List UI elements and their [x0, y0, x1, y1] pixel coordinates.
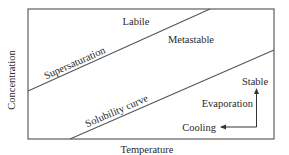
region-stable-label: Stable	[242, 76, 269, 87]
region-metastable-label: Metastable	[168, 34, 214, 45]
supersaturation-line	[28, 9, 210, 91]
cooling-label: Cooling	[182, 122, 217, 133]
region-labile-label: Labile	[123, 16, 150, 27]
y-axis-label: Concentration	[6, 50, 17, 110]
supersaturation-label: Supersaturation	[42, 44, 107, 81]
evaporation-label: Evaporation	[202, 98, 254, 109]
x-axis-label: Temperature	[121, 144, 174, 155]
solubility-curve-label: Solubility curve	[84, 92, 150, 129]
solubility-curve-line	[70, 50, 274, 139]
crystallization-phase-diagram: Labile Metastable Stable Supersaturation…	[0, 0, 289, 155]
